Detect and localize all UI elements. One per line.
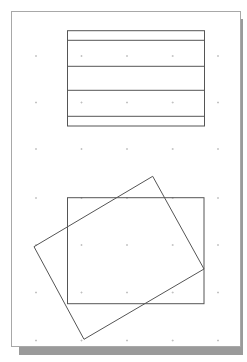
grid-dot-icon <box>217 102 219 104</box>
grid-dot-icon <box>126 55 128 57</box>
grid-dot-icon <box>126 102 128 104</box>
grid-dot-icon <box>81 340 83 342</box>
grid-dot-icon <box>172 55 174 57</box>
grid-dot-icon <box>35 340 37 342</box>
grid-dot-icon <box>35 148 37 150</box>
grid-dot-icon <box>172 292 174 294</box>
bottom-rectangle <box>68 198 205 304</box>
drawing-canvas <box>0 0 247 362</box>
grid-dot-icon <box>126 340 128 342</box>
grid-dot-icon <box>81 244 83 246</box>
grid-dot-icon <box>172 244 174 246</box>
grid-dot-icon <box>172 102 174 104</box>
grid-dot-icon <box>35 292 37 294</box>
grid-dot-icon <box>217 292 219 294</box>
grid-dot-icon <box>35 102 37 104</box>
grid-dot-icon <box>126 292 128 294</box>
grid-dot-icon <box>126 244 128 246</box>
grid-dot-icon <box>217 197 219 199</box>
grid-dot-icon <box>172 148 174 150</box>
grid-dot-icon <box>217 244 219 246</box>
grid-dot-icon <box>81 102 83 104</box>
grid-dot-icon <box>172 340 174 342</box>
grid-dot-icon <box>217 148 219 150</box>
rotated-rectangle <box>34 176 204 339</box>
grid-dot-icon <box>81 55 83 57</box>
shapes-layer <box>34 31 205 340</box>
grid-dot-icon <box>35 55 37 57</box>
grid-dot-icon <box>81 292 83 294</box>
grid-dot-icon <box>81 148 83 150</box>
grid-dot-icon <box>217 55 219 57</box>
top-rectangle <box>68 31 205 126</box>
grid-dot-icon <box>126 148 128 150</box>
grid-dot-icon <box>217 340 219 342</box>
grid-dot-icon <box>35 197 37 199</box>
grid-dots <box>35 55 219 342</box>
